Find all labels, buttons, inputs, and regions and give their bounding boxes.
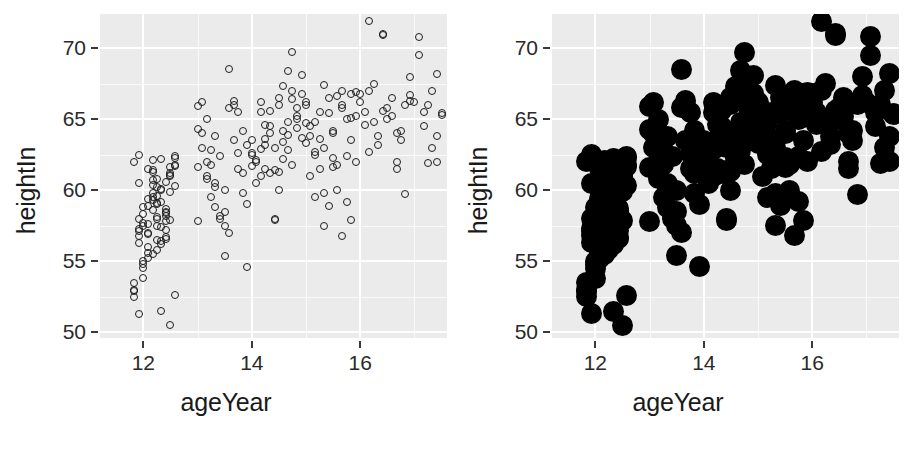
data-point bbox=[852, 66, 873, 87]
data-point bbox=[329, 154, 337, 162]
y-tick-mark bbox=[91, 189, 98, 191]
data-point bbox=[612, 315, 633, 336]
y-tick-label: 55 bbox=[42, 250, 86, 271]
data-point bbox=[666, 245, 687, 266]
data-point bbox=[157, 307, 165, 315]
x-tick-label: 12 bbox=[118, 352, 168, 373]
data-point bbox=[194, 163, 202, 171]
data-point bbox=[149, 168, 157, 176]
x-tick-mark bbox=[594, 341, 596, 348]
data-point bbox=[298, 71, 306, 79]
data-point bbox=[879, 126, 899, 147]
data-point bbox=[325, 94, 333, 102]
data-point bbox=[207, 146, 215, 154]
data-point bbox=[207, 161, 215, 169]
x-tick-label: 16 bbox=[787, 352, 837, 373]
data-point bbox=[216, 152, 224, 160]
data-point bbox=[198, 129, 206, 137]
data-point bbox=[171, 162, 179, 170]
data-point bbox=[207, 193, 215, 201]
data-point bbox=[689, 256, 710, 277]
data-point bbox=[689, 194, 710, 215]
data-point bbox=[594, 190, 615, 211]
data-point bbox=[361, 121, 369, 129]
data-point bbox=[157, 155, 165, 163]
data-point bbox=[225, 229, 233, 237]
y-tick-label: 65 bbox=[494, 108, 538, 129]
data-point bbox=[333, 92, 341, 100]
data-point bbox=[316, 135, 324, 143]
data-point bbox=[329, 127, 337, 135]
gridline-major-horizontal bbox=[100, 331, 447, 333]
data-point bbox=[433, 70, 441, 78]
data-point bbox=[279, 138, 287, 146]
data-point bbox=[266, 169, 274, 177]
data-point bbox=[162, 178, 170, 186]
data-point bbox=[166, 216, 174, 224]
data-point bbox=[221, 252, 229, 260]
y-tick-mark bbox=[91, 260, 98, 262]
data-point bbox=[257, 98, 265, 106]
gridline-major-vertical bbox=[251, 14, 253, 338]
data-point bbox=[275, 168, 283, 176]
data-point bbox=[239, 169, 247, 177]
data-point bbox=[639, 211, 660, 232]
data-point bbox=[662, 146, 683, 167]
data-point bbox=[343, 152, 351, 160]
data-point bbox=[130, 293, 138, 301]
y-tick-mark bbox=[91, 47, 98, 49]
data-point bbox=[657, 197, 678, 218]
data-point bbox=[320, 81, 328, 89]
data-point bbox=[166, 188, 174, 196]
data-point bbox=[234, 108, 242, 116]
data-point bbox=[288, 161, 296, 169]
panel-right: heightIn ageYear 5055606570 121416 bbox=[452, 0, 904, 451]
data-point bbox=[211, 132, 219, 140]
data-point bbox=[393, 165, 401, 173]
data-point bbox=[860, 45, 881, 66]
data-point bbox=[194, 102, 202, 110]
gridline-major-horizontal bbox=[552, 331, 899, 333]
data-point bbox=[279, 82, 287, 90]
data-point bbox=[271, 144, 279, 152]
data-point bbox=[420, 108, 428, 116]
data-point bbox=[874, 80, 895, 101]
data-point bbox=[275, 101, 283, 109]
gridline-minor-horizontal bbox=[552, 297, 899, 298]
data-point bbox=[433, 158, 441, 166]
data-point bbox=[347, 136, 355, 144]
data-point bbox=[211, 203, 219, 211]
data-point bbox=[343, 198, 351, 206]
data-point bbox=[720, 161, 741, 182]
y-tick-mark bbox=[543, 47, 550, 49]
data-point bbox=[671, 222, 692, 243]
y-tick-mark bbox=[91, 331, 98, 333]
y-tick-label: 70 bbox=[42, 37, 86, 58]
y-tick-mark bbox=[543, 189, 550, 191]
gridline-minor-vertical bbox=[414, 14, 415, 338]
data-point bbox=[284, 146, 292, 154]
data-point bbox=[838, 123, 859, 144]
data-point bbox=[149, 156, 157, 164]
data-point bbox=[293, 115, 301, 123]
data-point bbox=[748, 113, 769, 134]
data-point bbox=[325, 202, 333, 210]
data-point bbox=[316, 108, 324, 116]
data-point bbox=[288, 87, 296, 95]
data-point bbox=[765, 75, 786, 96]
x-tick-mark bbox=[703, 341, 705, 348]
data-point bbox=[279, 155, 287, 163]
data-point bbox=[248, 162, 256, 170]
gridline-minor-horizontal bbox=[100, 297, 447, 298]
y-tick-label: 50 bbox=[494, 321, 538, 342]
data-point bbox=[252, 179, 260, 187]
figure-scatter-pair: heightIn ageYear 5055606570 121416 heigh… bbox=[0, 0, 904, 451]
data-point bbox=[162, 205, 170, 213]
data-point bbox=[428, 144, 436, 152]
data-point bbox=[420, 122, 428, 130]
data-point bbox=[428, 87, 436, 95]
data-point bbox=[320, 189, 328, 197]
data-point bbox=[284, 67, 292, 75]
data-point bbox=[135, 310, 143, 318]
y-tick-label: 70 bbox=[494, 37, 538, 58]
